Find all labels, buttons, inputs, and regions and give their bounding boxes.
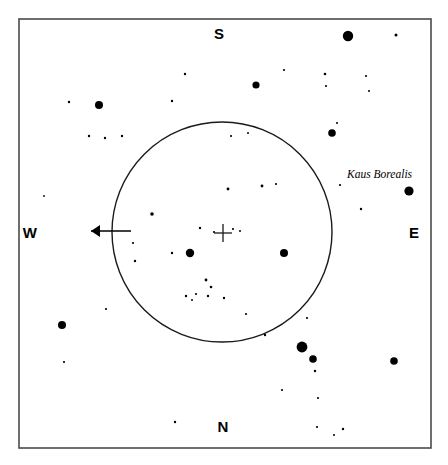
star-marker xyxy=(191,299,193,301)
star-marker xyxy=(281,389,283,391)
cardinal-label-west: W xyxy=(23,225,37,240)
star-marker xyxy=(365,75,367,77)
star-chart: S N W E Kaus Borealis xyxy=(0,0,448,465)
star-marker xyxy=(104,137,106,139)
star-marker xyxy=(280,249,288,257)
star-marker xyxy=(404,186,413,195)
star-marker xyxy=(328,129,336,137)
sky-plot xyxy=(0,0,448,465)
star-marker xyxy=(306,317,308,319)
star-marker xyxy=(324,73,327,76)
star-marker xyxy=(210,286,213,289)
star-marker xyxy=(333,434,335,436)
star-marker xyxy=(245,313,247,315)
star-marker xyxy=(205,279,208,282)
star-marker xyxy=(368,90,370,92)
star-marker xyxy=(395,34,398,37)
star-marker xyxy=(207,295,209,297)
star-marker xyxy=(343,31,353,41)
star-marker xyxy=(252,81,259,88)
star-marker xyxy=(121,135,123,137)
star-marker xyxy=(339,184,341,186)
cardinal-label-south: S xyxy=(214,26,224,41)
star-marker xyxy=(68,101,70,103)
star-marker xyxy=(247,132,249,134)
cardinal-label-east: E xyxy=(409,225,419,240)
star-marker xyxy=(314,370,316,372)
star-marker xyxy=(309,355,317,363)
star-marker xyxy=(185,295,187,297)
star-marker xyxy=(316,426,318,428)
star-marker xyxy=(105,308,107,310)
star-marker xyxy=(186,249,194,257)
star-marker xyxy=(174,421,176,423)
star-marker xyxy=(390,357,398,365)
star-marker xyxy=(232,228,234,230)
star-marker xyxy=(88,135,90,137)
star-marker xyxy=(297,342,308,353)
star-marker xyxy=(58,321,66,329)
star-marker xyxy=(195,293,197,295)
star-marker xyxy=(360,208,362,210)
star-marker xyxy=(223,297,225,299)
star-marker xyxy=(325,85,327,87)
star-marker xyxy=(227,188,230,191)
star-marker xyxy=(132,242,134,244)
star-marker xyxy=(336,122,338,124)
star-marker xyxy=(134,260,136,262)
star-label-kaus-borealis: Kaus Borealis xyxy=(347,168,412,180)
star-marker xyxy=(171,252,173,254)
star-marker xyxy=(239,230,241,232)
star-marker xyxy=(171,100,173,102)
star-marker xyxy=(95,101,103,109)
star-marker xyxy=(283,69,285,71)
star-marker xyxy=(150,212,154,216)
star-marker xyxy=(275,183,277,185)
star-marker xyxy=(261,185,264,188)
star-marker xyxy=(43,195,45,197)
star-marker xyxy=(317,397,319,399)
star-marker xyxy=(184,73,186,75)
star-marker xyxy=(63,361,65,363)
cardinal-label-north: N xyxy=(217,419,228,434)
star-marker xyxy=(199,227,201,229)
star-marker xyxy=(342,428,344,430)
star-marker xyxy=(230,135,232,137)
